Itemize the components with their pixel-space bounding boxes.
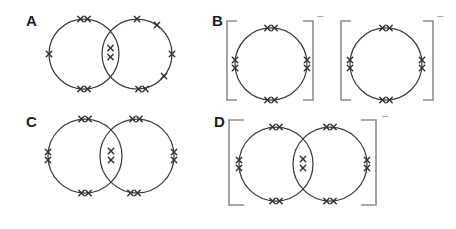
electron-shell-circle: [239, 127, 313, 201]
panel-label-d: D: [214, 114, 225, 129]
panel-a: [46, 16, 174, 91]
panel-label-a: A: [26, 13, 37, 28]
panel-d: −: [229, 111, 389, 205]
panel-c: [45, 116, 176, 195]
charge-minus: −: [381, 111, 389, 122]
electron-shell-circle: [100, 119, 174, 193]
panel-b: −−: [227, 11, 444, 103]
electron-cross-icon: [108, 54, 113, 59]
diagram-svg: −−−: [0, 0, 456, 229]
electron-cross-icon: [154, 22, 159, 27]
electron-cross-icon: [108, 157, 113, 162]
dot-and-cross-figure: −−− A B C D: [0, 0, 456, 229]
panel-label-b: B: [212, 13, 223, 28]
charge-minus: −: [316, 11, 324, 22]
panel-label-c: C: [26, 114, 37, 129]
electron-cross-icon: [161, 73, 166, 78]
electron-shell-circle: [235, 28, 307, 100]
electron-cross-icon: [108, 148, 113, 153]
electron-shell-circle: [293, 127, 367, 201]
charge-minus: −: [436, 11, 444, 22]
electron-cross-icon: [300, 165, 305, 170]
right-bracket-icon: [423, 21, 433, 100]
electron-cross-icon: [108, 45, 113, 50]
electron-cross-icon: [300, 156, 305, 161]
electron-shell-circle: [350, 28, 422, 100]
